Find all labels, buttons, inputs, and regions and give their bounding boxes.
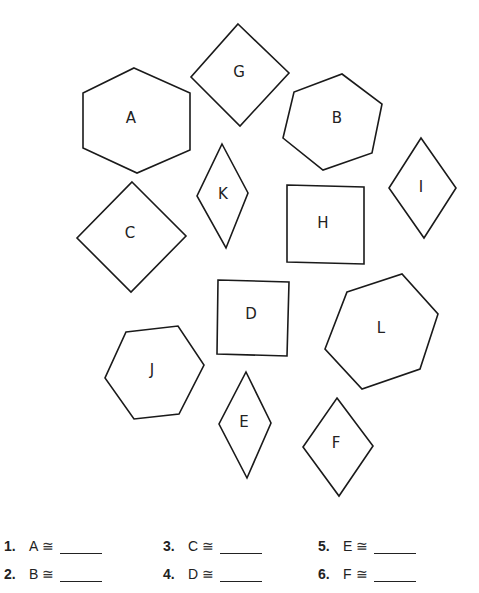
shape-h-square: H [287,185,364,264]
shape-label: L [377,319,386,337]
question-5: 5. E ≅ [318,537,416,555]
question-3: 3. C ≅ [163,537,262,555]
question-number: 5. [318,538,342,554]
question-number: 1. [4,538,28,554]
question-2: 2. B ≅ [4,565,102,583]
answer-blank[interactable] [220,539,262,554]
shape-label: G [233,63,245,81]
shape-label: D [245,305,257,323]
answer-blank[interactable] [374,539,416,554]
shape-g-square: G [191,24,289,126]
question-shape-letter: A [29,538,38,554]
shape-label: I [419,178,423,196]
shape-e-rhombus: E [219,372,271,478]
shape-label: K [218,185,229,203]
hexagon-outline [105,326,204,419]
congruent-symbol: ≅ [202,538,214,554]
question-6: 6. F ≅ [318,565,416,583]
question-shape-letter: F [343,566,352,582]
question-number: 3. [163,538,187,554]
shape-k-rhombus: K [197,144,248,248]
shape-i-rhombus: I [389,138,456,238]
hexagon-outline [83,68,190,173]
question-shape-letter: C [188,538,198,554]
question-1: 1. A ≅ [4,537,102,555]
question-number: 6. [318,566,342,582]
congruent-symbol: ≅ [356,566,368,582]
question-shape-letter: E [343,538,352,554]
shape-label: C [125,224,135,242]
answer-blank[interactable] [374,567,416,582]
shape-l-hexagon: L [325,274,438,389]
shape-a-hexagon: A [83,68,190,173]
answer-blank[interactable] [220,567,262,582]
shape-label: H [317,214,328,232]
shape-label: E [239,413,248,431]
shapes-figure: AGBIKHCDLJEF [0,0,479,510]
shape-label: F [332,434,341,452]
congruent-symbol: ≅ [202,566,214,582]
question-shape-letter: D [188,566,198,582]
shape-label: B [332,109,342,127]
question-shape-letter: B [29,566,38,582]
shape-label: A [126,109,137,127]
question-4: 4. D ≅ [163,565,262,583]
shape-b-hexagon: B [283,74,382,170]
shape-j-hexagon: J [105,326,204,419]
answer-blank[interactable] [60,567,102,582]
congruent-symbol: ≅ [42,538,54,554]
congruent-symbol: ≅ [356,538,368,554]
shape-d-square: D [217,280,289,356]
shape-label: J [149,361,154,379]
question-number: 4. [163,566,187,582]
shape-c-square: C [77,182,186,292]
shape-f-rhombus: F [303,398,373,496]
congruent-symbol: ≅ [42,566,54,582]
question-number: 2. [4,566,28,582]
answer-blank[interactable] [60,539,102,554]
